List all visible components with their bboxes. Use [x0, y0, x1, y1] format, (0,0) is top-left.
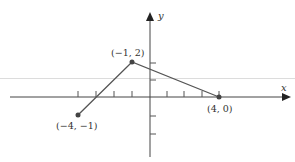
coordinate-plane: [0, 0, 295, 162]
point-label-neg4-neg1: (−4, −1): [56, 121, 97, 131]
point-neg4-neg1: [76, 113, 81, 118]
piecewise-segment: [78, 62, 219, 115]
point-neg1-2: [130, 60, 135, 65]
point-label-4-0: (4, 0): [207, 104, 233, 114]
point-4-0: [217, 95, 222, 100]
y-axis-label: y: [158, 11, 164, 21]
y-axis-ticks: [150, 63, 156, 134]
point-label-neg1-2: (−1, 2): [111, 48, 145, 58]
y-axis-arrow-icon: [146, 12, 154, 21]
x-axis-label: x: [281, 83, 287, 93]
x-axis-arrow-icon: [282, 93, 291, 101]
diagram-canvas: x y (−1, 2) (−4, −1) (4, 0): [0, 0, 295, 162]
